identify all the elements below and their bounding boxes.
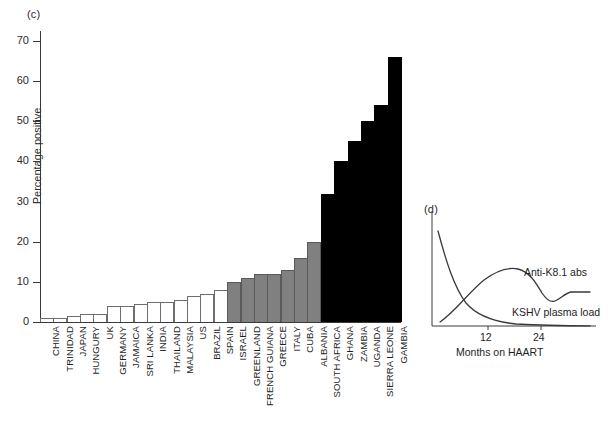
bar — [67, 316, 81, 322]
x-axis-category-label: SIERRA LEONE — [384, 326, 395, 397]
x-axis-category-label: ITALY — [291, 326, 302, 352]
bar — [281, 270, 295, 322]
x-axis-category-label: SPAIN — [224, 326, 235, 354]
bar — [160, 302, 174, 322]
bar — [267, 274, 281, 322]
bar — [147, 302, 161, 322]
x-axis-category-label: JAPAN — [77, 326, 88, 356]
x-axis-category-label: MALAYSIA — [184, 326, 195, 374]
y-axis-tick-label: 40 — [7, 154, 29, 166]
panel-c-bar-chart: (c) Percentage positive 010203040506070 … — [0, 0, 420, 433]
x-axis-category-label: HUNGURY — [90, 326, 101, 375]
x-axis-category-label: BRAZIL — [211, 326, 222, 360]
y-axis-tick — [33, 282, 40, 283]
bar — [107, 306, 121, 322]
x-axis-category-label: ALBANIA — [318, 326, 329, 367]
bar — [307, 242, 321, 322]
panel-c-tag: (c) — [27, 8, 40, 20]
panel-d-line-chart: Anti-K8.1 abs KSHV plasma load 12 24 Mon… — [418, 195, 610, 355]
x-axis-category-label: THAILAND — [171, 326, 182, 374]
x-axis-category-label: SOUTH AFRICA — [331, 326, 342, 397]
bars-group — [40, 33, 401, 322]
panel-d-legend-anti-k81: Anti-K8.1 abs — [524, 266, 587, 278]
x-axis-category-label: SRI LANKA — [144, 326, 155, 377]
bar — [80, 314, 94, 322]
y-axis-tick-label: 0 — [7, 315, 29, 327]
x-axis-category-label: FRENCH GUIANA — [264, 326, 275, 406]
y-axis-tick — [33, 322, 40, 323]
bar — [40, 318, 54, 322]
y-axis-tick-label: 10 — [7, 275, 29, 287]
bar — [93, 314, 107, 322]
panel-d-legend-kshv-load: KSHV plasma load — [512, 306, 600, 318]
bar — [227, 282, 241, 322]
x-axis-category-label: US — [197, 326, 208, 339]
bar — [120, 306, 134, 322]
x-axis-category-label: ZAMBIA — [358, 326, 369, 362]
x-axis-category-label: UK — [104, 326, 115, 339]
x-axis-category-label: TRINIDAD — [64, 326, 75, 372]
x-axis-category-label: GHANA — [344, 326, 355, 360]
bar — [294, 258, 308, 322]
bar — [187, 296, 201, 322]
bar — [321, 194, 335, 322]
bar — [214, 290, 228, 322]
y-axis-tick-label: 30 — [7, 195, 29, 207]
y-axis-tick — [33, 202, 40, 203]
bar — [388, 57, 402, 322]
y-axis-tick — [33, 242, 40, 243]
x-axis-category-label: CUBA — [304, 326, 315, 353]
bar — [334, 161, 348, 322]
panel-d-x-axis-title: Months on HAART — [456, 346, 543, 358]
x-axis-line — [40, 322, 401, 323]
bar — [53, 318, 67, 322]
x-axis-category-label: GREENLAND — [251, 326, 262, 386]
x-axis-category-label: GREECE — [277, 326, 288, 367]
y-axis-tick-label: 50 — [7, 114, 29, 126]
x-axis-category-label: ISRAEL — [237, 326, 248, 360]
y-axis-tick — [33, 121, 40, 122]
x-axis-category-label: GAMBIA — [398, 326, 409, 364]
y-axis-tick-label: 60 — [7, 74, 29, 86]
x-axis-category-label: UGANDA — [371, 326, 382, 367]
bar — [134, 304, 148, 322]
bar — [361, 121, 375, 322]
panel-d-xtick-label-12: 12 — [480, 331, 492, 343]
bar — [241, 278, 255, 322]
y-axis-tick-label: 70 — [7, 34, 29, 46]
bar — [254, 274, 268, 322]
panel-d-xtick-label-24: 24 — [533, 331, 545, 343]
bar — [348, 141, 362, 322]
x-axis-category-label: JAMAICA — [130, 326, 141, 368]
bar — [374, 105, 388, 322]
y-axis-tick-label: 20 — [7, 235, 29, 247]
x-axis-category-label: INDIA — [157, 326, 168, 352]
bar — [200, 294, 214, 322]
y-axis-tick — [33, 161, 40, 162]
y-axis-tick — [33, 81, 40, 82]
bar — [174, 300, 188, 322]
x-axis-category-label: CHINA — [50, 326, 61, 356]
x-axis-category-label: GERMANY — [117, 326, 128, 375]
y-axis-tick — [33, 41, 40, 42]
